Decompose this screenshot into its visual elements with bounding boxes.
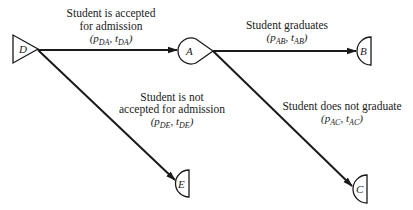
edge-label-a-to-c: Student does not graduate (pAC, tAC) — [282, 100, 401, 127]
node-e: E — [176, 170, 190, 197]
node-a: A — [178, 38, 213, 64]
edge-d-e-line-1: Student is not — [140, 91, 204, 103]
edge-label-d-to-a: Student is accepted for admission (pDA, … — [67, 7, 156, 47]
decision-tree-diagram: D A B E C Student is accepted for admiss… — [0, 0, 413, 210]
edge-a-b-param: (pAB, tAB) — [267, 31, 308, 46]
edge-d-a-line-2: for admission — [80, 20, 143, 32]
edge-a-c-param: (pAC, tAC) — [321, 112, 363, 127]
node-c: C — [353, 175, 367, 203]
edge-d-a-param: (pDA, tDA) — [90, 32, 133, 47]
edge-label-d-to-e: Student is not accepted for admission (p… — [119, 91, 225, 130]
node-b-label: B — [360, 45, 367, 57]
node-d: D — [13, 35, 38, 63]
node-d-label: D — [18, 43, 27, 55]
node-e-label: E — [177, 178, 185, 190]
edge-label-a-to-b: Student graduates (pAB, tAB) — [246, 19, 329, 46]
node-c-label: C — [356, 183, 364, 195]
edge-d-e-param: (pDE, tDE) — [151, 115, 194, 130]
node-b: B — [357, 37, 371, 65]
node-a-label: A — [185, 45, 193, 57]
edge-d-a-line-1: Student is accepted — [67, 7, 156, 20]
